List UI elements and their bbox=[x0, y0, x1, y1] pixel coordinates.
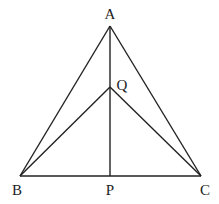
label-C: C bbox=[200, 182, 210, 198]
segments bbox=[20, 26, 201, 176]
label-B: B bbox=[12, 182, 22, 198]
point-labels: A Q B P C bbox=[12, 6, 210, 198]
label-P: P bbox=[106, 182, 114, 198]
label-Q: Q bbox=[117, 77, 128, 93]
geometry-diagram: A Q B P C bbox=[0, 0, 219, 204]
label-A: A bbox=[105, 6, 116, 22]
